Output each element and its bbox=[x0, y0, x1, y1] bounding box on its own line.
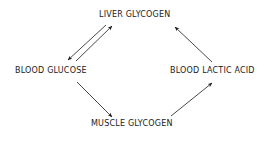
node-blood-glucose: BLOOD GLUCOSE bbox=[15, 66, 87, 76]
arrow-glucose-to-muscle bbox=[77, 82, 112, 117]
arrow-liver-to-glucose bbox=[68, 25, 106, 60]
arrow-muscle-to-lactic bbox=[171, 83, 212, 116]
cori-cycle-diagram: LIVER GLYCOGEN BLOOD GLUCOSE BLOOD LACTI… bbox=[0, 0, 279, 141]
arrow-glucose-to-liver bbox=[76, 26, 112, 61]
node-blood-lactic-acid: BLOOD LACTIC ACID bbox=[170, 66, 255, 76]
node-muscle-glycogen: MUSCLE GLYCOGEN bbox=[91, 119, 173, 129]
node-liver-glycogen: LIVER GLYCOGEN bbox=[99, 10, 170, 20]
arrow-lactic-to-liver bbox=[175, 27, 212, 62]
